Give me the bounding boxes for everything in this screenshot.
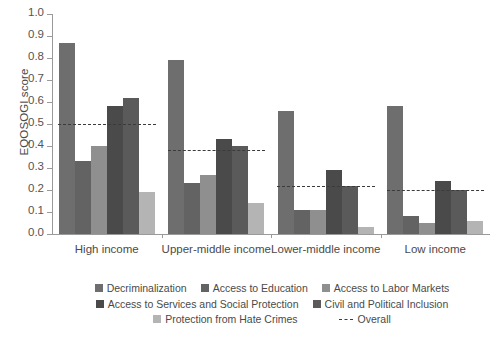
plot-area: 1.00.90.80.70.60.50.40.30.20.10.0 — [52, 14, 490, 234]
bar-groups — [52, 14, 490, 234]
bar — [294, 210, 310, 234]
legend-swatch-icon — [322, 284, 330, 292]
y-tick-label: 0.6 — [10, 94, 44, 106]
bar-group — [271, 14, 381, 234]
y-tick-label: 0.0 — [10, 226, 44, 238]
bar — [216, 139, 232, 234]
legend-item[interactable]: Civil and Political Inclusion — [313, 298, 449, 310]
bar — [403, 216, 419, 234]
y-tick-label: 0.9 — [10, 28, 44, 40]
legend-item[interactable]: Access to Labor Markets — [322, 282, 450, 294]
x-tick-mark — [162, 234, 163, 238]
legend-item-label: Overall — [358, 313, 391, 325]
legend-swatch-icon — [201, 284, 209, 292]
bar-group — [52, 14, 162, 234]
legend-item-label: Civil and Political Inclusion — [325, 298, 449, 310]
x-tick-mark — [271, 234, 272, 238]
legend-item[interactable]: Protection from Hate Crimes — [153, 313, 297, 325]
overall-reference-line — [277, 186, 375, 187]
overall-reference-line — [387, 190, 485, 191]
bar-group-bars — [162, 14, 272, 234]
bar — [387, 106, 403, 234]
legend-item[interactable]: Access to Services and Social Protection — [96, 298, 299, 310]
legend-row-2: Access to Services and Social Protection… — [52, 298, 492, 310]
bar — [248, 203, 264, 234]
bar — [139, 192, 155, 234]
legend-swatch-icon — [95, 284, 103, 292]
legend-row-3: Protection from Hate CrimesOverall — [52, 313, 492, 325]
overall-reference-line — [168, 150, 266, 151]
y-tick-label: 0.4 — [10, 138, 44, 150]
bar-group — [162, 14, 272, 234]
bar — [59, 43, 75, 234]
bar — [200, 175, 216, 234]
bar — [278, 111, 294, 234]
bar — [451, 190, 467, 234]
legend-dashed-line-icon — [339, 319, 353, 320]
legend-item[interactable]: Decriminalization — [95, 282, 187, 294]
bar — [75, 161, 91, 234]
bar-group — [381, 14, 491, 234]
chart-legend: DecriminalizationAccess to EducationAcce… — [52, 282, 492, 329]
y-tick-label: 0.8 — [10, 50, 44, 62]
bar — [168, 60, 184, 234]
bar-group-bars — [381, 14, 491, 234]
legend-item-label: Access to Education — [213, 282, 308, 294]
bar — [326, 170, 342, 234]
y-tick-label: 0.7 — [10, 72, 44, 84]
y-tick-label: 0.2 — [10, 182, 44, 194]
bar — [342, 186, 358, 234]
overall-reference-line — [58, 124, 156, 125]
x-axis-category-label: Upper-middle income — [162, 242, 272, 256]
legend-item-label: Protection from Hate Crimes — [165, 313, 297, 325]
bar — [232, 146, 248, 234]
chart-container: EQOSOGI score 1.00.90.80.70.60.50.40.30.… — [0, 0, 502, 339]
x-axis-category-label: High income — [52, 242, 162, 256]
x-axis-category-labels: High incomeUpper-middle incomeLower-midd… — [52, 242, 490, 256]
legend-item-label: Decriminalization — [107, 282, 187, 294]
y-tick-label: 0.1 — [10, 204, 44, 216]
x-axis-category-label: Low income — [381, 242, 491, 256]
x-tick-mark — [381, 234, 382, 238]
legend-item[interactable]: Access to Education — [201, 282, 308, 294]
bar — [358, 227, 374, 234]
legend-item-label: Access to Services and Social Protection — [108, 298, 299, 310]
bar — [467, 221, 483, 234]
y-tick-label: 1.0 — [10, 6, 44, 18]
bar — [91, 146, 107, 234]
legend-swatch-icon — [313, 300, 321, 308]
legend-item-overall[interactable]: Overall — [339, 313, 391, 325]
legend-row-1: DecriminalizationAccess to EducationAcce… — [52, 282, 492, 294]
bar — [310, 210, 326, 234]
x-axis-category-label: Lower-middle income — [271, 242, 381, 256]
bar — [419, 223, 435, 234]
bar — [123, 98, 139, 234]
bar — [184, 183, 200, 234]
bar-group-bars — [271, 14, 381, 234]
legend-swatch-icon — [96, 300, 104, 308]
legend-swatch-icon — [153, 315, 161, 323]
y-tick-label: 0.5 — [10, 116, 44, 128]
y-tick-label: 0.3 — [10, 160, 44, 172]
legend-item-label: Access to Labor Markets — [334, 282, 450, 294]
bar — [107, 106, 123, 234]
